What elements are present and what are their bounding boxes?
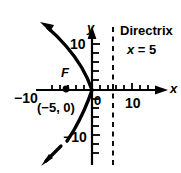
directrix-title: Directrix	[120, 24, 173, 37]
directrix-equation-rel: =	[138, 42, 146, 57]
parabola-figure: x y −10 0 10 10 −10 F (−5, 0) Directrix …	[0, 0, 181, 173]
origin-label: 0	[94, 94, 101, 107]
focus-coordinate-label: (−5, 0)	[37, 101, 75, 114]
x-tick-label-10: 10	[125, 96, 141, 110]
directrix-equation-lhs: x	[127, 42, 134, 57]
directrix-equation: x = 5	[127, 43, 156, 56]
focus-point-dot	[63, 86, 70, 93]
y-tick-label-10: 10	[70, 37, 86, 51]
curve-arrow-lower	[41, 146, 61, 166]
y-tick-label-neg10: −10	[63, 130, 87, 144]
x-tick-label-neg10: −10	[14, 91, 38, 105]
y-axis-label: y	[87, 21, 94, 34]
directrix-equation-rhs: 5	[149, 42, 156, 57]
x-axis-label: x	[170, 82, 177, 95]
focus-label: F	[61, 66, 69, 79]
